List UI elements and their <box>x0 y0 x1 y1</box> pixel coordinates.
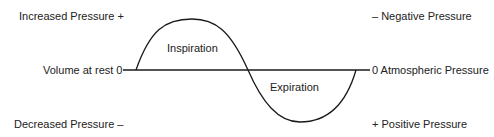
expiration-label: Expiration <box>270 81 319 94</box>
negative-pressure-label: – Negative Pressure <box>372 10 472 23</box>
decreased-pressure-label: Decreased Pressure – <box>14 118 123 131</box>
inspiration-label: Inspiration <box>167 42 218 55</box>
increased-pressure-label: Increased Pressure + <box>19 10 124 23</box>
volume-at-rest-label: Volume at rest 0 <box>43 64 123 77</box>
atmospheric-pressure-label: 0 Atmospheric Pressure <box>372 64 489 77</box>
expiration-curve <box>248 70 356 122</box>
positive-pressure-label: + Positive Pressure <box>372 118 467 131</box>
